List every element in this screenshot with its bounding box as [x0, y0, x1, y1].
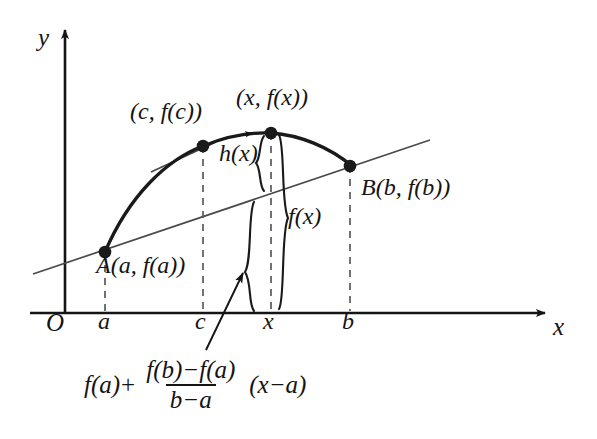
- point-label-c: (c, f(c)): [130, 98, 202, 125]
- formula-pointer-arrow: [206, 273, 243, 350]
- point-label-B: B(b, f(b)): [361, 174, 450, 201]
- formula-numerator: f(b)−f(a): [142, 357, 239, 384]
- y-axis-label: y: [38, 24, 49, 52]
- point-label-A: A(a, f(a)): [96, 252, 185, 279]
- origin-label: O: [46, 309, 64, 337]
- brace-label-f: f(x): [288, 203, 321, 230]
- figure-canvas: y x O a c x b (c, f(c)) (x, f(x)) A(a, f…: [0, 0, 597, 439]
- brace-f: [279, 135, 288, 309]
- point-B-dot: [344, 160, 357, 173]
- curve-direction-arrow: [222, 133, 252, 139]
- x-axis-label: x: [553, 313, 564, 341]
- secant-line-formula: f(a) + f(b)−f(a) b−a (x−a): [84, 357, 306, 414]
- point-X-dot: [265, 127, 278, 140]
- formula-denominator: b−a: [166, 384, 216, 413]
- x-tick-c: c: [195, 308, 206, 335]
- formula-fraction: f(b)−f(a) b−a: [142, 357, 239, 414]
- x-tick-a: a: [98, 308, 110, 335]
- formula-lead: f(a): [84, 371, 120, 399]
- point-label-x: (x, f(x)): [236, 84, 308, 111]
- formula-operator: +: [121, 371, 135, 399]
- brace-secant-to-axis: [245, 202, 254, 311]
- x-tick-b: b: [342, 308, 354, 335]
- point-C-dot: [197, 140, 210, 153]
- brace-label-h: h(x): [219, 140, 258, 167]
- formula-trailing: (x−a): [249, 371, 306, 399]
- x-tick-x: x: [263, 308, 274, 335]
